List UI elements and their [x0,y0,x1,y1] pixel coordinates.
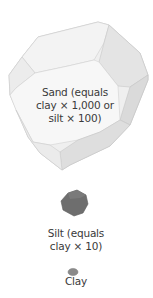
clay-label: Clay [50,275,102,288]
soil-particle-size-diagram: Sand (equals clay × 1,000 or silt × 100)… [0,0,153,298]
silt-particle-icon [61,190,88,216]
silt-label: Silt (equals clay × 10) [36,227,116,253]
silt-label-line-1: Silt (equals [36,227,116,240]
sand-label-line-1: Sand (equals [20,86,130,99]
particles-graphic [0,0,153,298]
sand-label-line-3: silt × 100) [20,112,130,125]
clay-label-line-1: Clay [50,275,102,288]
sand-label: Sand (equals clay × 1,000 or silt × 100) [20,86,130,125]
silt-label-line-2: clay × 10) [36,240,116,253]
sand-label-line-2: clay × 1,000 or [20,99,130,112]
